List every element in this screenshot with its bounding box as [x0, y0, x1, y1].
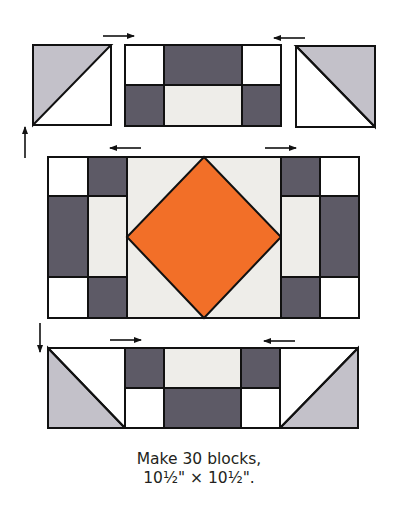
top-right-hst	[296, 46, 375, 127]
block-caption: Make 30 blocks, 10½" × 10½".	[0, 450, 398, 488]
caption-line-2: 10½" × 10½".	[0, 469, 398, 488]
top-center-unit	[125, 45, 281, 126]
bottom-center-unit	[125, 348, 280, 428]
quilt-block-diagram	[0, 0, 398, 440]
square-in-a-square	[127, 157, 281, 318]
top-left-hst	[33, 45, 111, 125]
bottom-left-hst	[48, 348, 125, 428]
caption-line-1: Make 30 blocks,	[0, 450, 398, 469]
bottom-row	[48, 348, 358, 428]
bottom-right-hst	[280, 348, 358, 428]
left-side-unit	[48, 157, 127, 318]
right-side-unit	[281, 157, 359, 318]
center-row	[48, 157, 359, 318]
top-row	[33, 45, 375, 127]
